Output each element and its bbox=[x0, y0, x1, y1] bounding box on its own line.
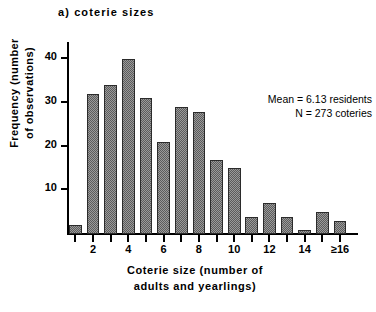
x-tick-15 bbox=[321, 235, 323, 242]
annotation-mean: Mean = 6.13 residents bbox=[222, 92, 372, 106]
bar-10 bbox=[228, 168, 241, 234]
y-axis-title-line-1: Frequency (number bbox=[7, 0, 22, 188]
bar-15 bbox=[316, 212, 329, 234]
y-axis-title-line-2: of observations) bbox=[22, 0, 37, 188]
x-tick-label-10: 10 bbox=[220, 243, 248, 255]
x-axis-title-line-2: adults and yearlings) bbox=[60, 278, 330, 294]
x-tick-2 bbox=[92, 235, 94, 242]
x-tick-label-2: 2 bbox=[79, 243, 107, 255]
x-axis-title-line-1: Coterie size (number of bbox=[60, 262, 330, 278]
x-tick-1 bbox=[74, 235, 76, 242]
x-tick-3 bbox=[110, 235, 112, 242]
x-tick-14 bbox=[304, 235, 306, 242]
bar-13 bbox=[281, 217, 294, 234]
x-tick-4 bbox=[127, 235, 129, 242]
bar-2 bbox=[87, 94, 100, 234]
bar-7 bbox=[175, 107, 188, 234]
y-axis-title: Frequency (number of observations) bbox=[7, 0, 37, 188]
x-tick-label-4: 4 bbox=[114, 243, 142, 255]
x-tick-≥16 bbox=[339, 235, 341, 242]
x-tick-label-12: 12 bbox=[255, 243, 283, 255]
figure-histogram-coterie-sizes: a) coterie sizes 40302010 2468101214≥16 … bbox=[0, 0, 376, 312]
bar-12 bbox=[263, 203, 276, 234]
bar-11 bbox=[245, 217, 258, 234]
bar-≥16 bbox=[334, 221, 347, 234]
x-tick-7 bbox=[180, 235, 182, 242]
panel-title: a) coterie sizes bbox=[58, 6, 154, 18]
x-tick-5 bbox=[145, 235, 147, 242]
x-tick-8 bbox=[198, 235, 200, 242]
x-tick-10 bbox=[233, 235, 235, 242]
x-tick-label-≥16: ≥16 bbox=[326, 243, 354, 255]
x-tick-11 bbox=[251, 235, 253, 242]
bar-3 bbox=[104, 85, 117, 234]
bar-1 bbox=[69, 225, 82, 234]
bar-6 bbox=[157, 142, 170, 234]
annotation-sample-size: N = 273 coteries bbox=[222, 106, 372, 120]
x-tick-13 bbox=[286, 235, 288, 242]
x-tick-6 bbox=[163, 235, 165, 242]
x-tick-label-14: 14 bbox=[291, 243, 319, 255]
x-axis-title: Coterie size (number of adults and yearl… bbox=[60, 262, 330, 294]
x-tick-9 bbox=[216, 235, 218, 242]
bar-4 bbox=[122, 59, 135, 234]
x-tick-label-6: 6 bbox=[150, 243, 178, 255]
bar-8 bbox=[193, 112, 206, 234]
chart-annotation: Mean = 6.13 residents N = 273 coteries bbox=[222, 92, 372, 120]
bars-layer bbox=[67, 42, 358, 234]
bar-9 bbox=[210, 160, 223, 234]
bar-5 bbox=[140, 98, 153, 234]
x-tick-12 bbox=[268, 235, 270, 242]
bar-14 bbox=[298, 230, 311, 234]
x-tick-label-8: 8 bbox=[185, 243, 213, 255]
